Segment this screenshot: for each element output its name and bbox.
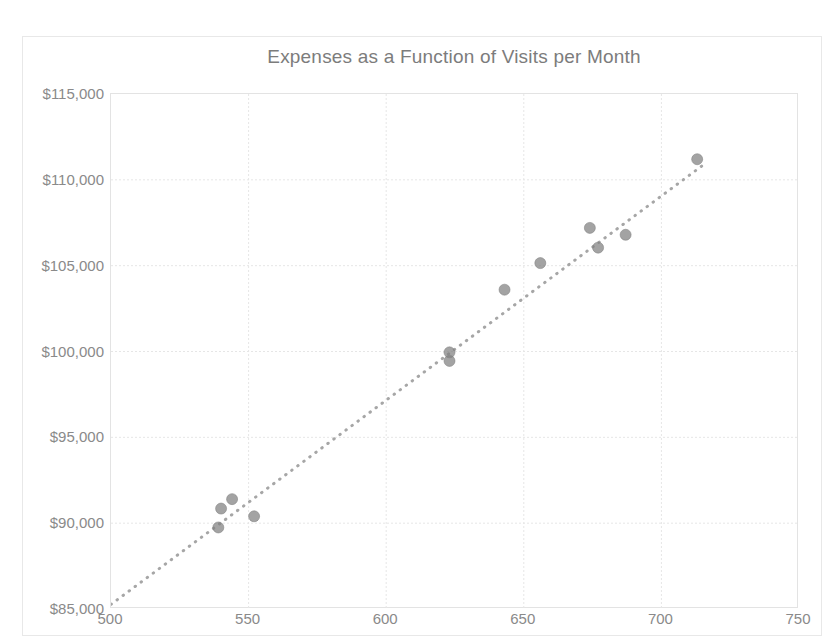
data-point[interactable] [535,258,546,269]
data-point[interactable] [620,229,631,240]
data-point[interactable] [692,154,703,165]
x-axis-tick-labels: 500550600650700750 [110,610,798,636]
plot-svg [111,94,799,609]
data-point[interactable] [584,222,595,233]
y-axis-tick-label: $95,000 [50,428,104,445]
x-axis-tick-label: 550 [235,610,260,627]
y-axis-tick-label: $110,000 [43,170,104,187]
data-point[interactable] [213,522,224,533]
y-axis-tick-label: $115,000 [43,85,104,102]
x-axis-tick-label: 500 [97,610,122,627]
trendline [111,163,705,604]
plot-area [110,93,798,608]
x-axis-tick-label: 700 [648,610,673,627]
y-axis-tick-label: $105,000 [41,256,104,273]
data-point[interactable] [593,242,604,253]
data-point[interactable] [444,355,455,366]
y-axis-tick-label: $85,000 [50,600,104,617]
y-axis-tick-labels: $85,000$90,000$95,000$100,000$105,000$11… [18,93,104,608]
data-point[interactable] [227,494,238,505]
data-point[interactable] [249,511,260,522]
x-axis-tick-label: 750 [785,610,810,627]
y-axis-tick-label: $90,000 [50,514,104,531]
x-axis-tick-label: 600 [373,610,398,627]
x-axis-tick-label: 650 [510,610,535,627]
y-axis-tick-label: $100,000 [41,342,104,359]
data-point[interactable] [216,503,227,514]
data-point[interactable] [499,284,510,295]
chart-screenshot: Expenses as a Function of Visits per Mon… [0,0,835,643]
chart-title: Expenses as a Function of Visits per Mon… [110,46,798,68]
